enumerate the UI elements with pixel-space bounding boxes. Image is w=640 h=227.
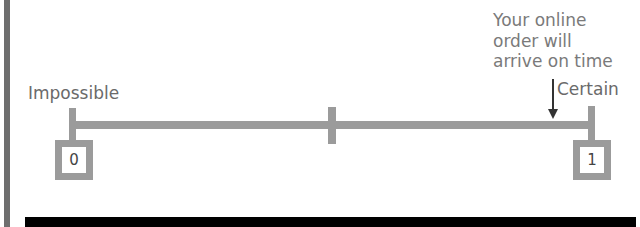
annotation-text: Your online order will arrive on time [493, 10, 613, 72]
arrow-down-icon [548, 109, 558, 119]
bottom-black-bar [25, 217, 636, 227]
scale-tick-start [69, 108, 76, 142]
impossible-label: Impossible [28, 83, 119, 103]
annotation-line-2: order will [493, 31, 613, 52]
scale-tick-end [588, 106, 595, 142]
certain-label: Certain [557, 79, 619, 99]
left-margin-rule [4, 0, 10, 227]
value-zero: 0 [62, 147, 86, 173]
value-box-one: 1 [573, 140, 611, 180]
scale-tick-middle [328, 107, 336, 144]
arrow-down-icon-shaft [552, 79, 554, 111]
annotation-line-3: arrive on time [493, 51, 613, 72]
value-one: 1 [580, 147, 604, 173]
value-box-zero: 0 [55, 140, 93, 180]
annotation-line-1: Your online [493, 10, 613, 31]
